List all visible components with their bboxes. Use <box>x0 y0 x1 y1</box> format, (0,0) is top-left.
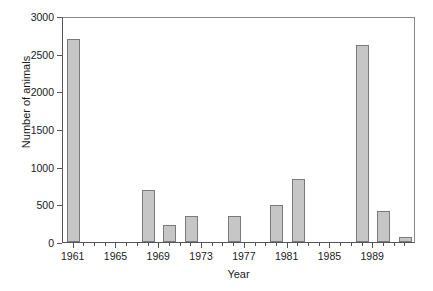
x-axis-tick <box>158 243 159 248</box>
bar <box>399 237 412 242</box>
bar <box>228 216 241 242</box>
x-axis-minor-tick <box>83 243 84 246</box>
y-axis-tick <box>57 243 62 244</box>
x-axis-minor-tick <box>94 243 95 246</box>
x-axis-tick-label: 1961 <box>53 250 93 262</box>
y-axis-tick-label: 2000 <box>31 87 54 97</box>
x-axis-minor-tick <box>319 243 320 246</box>
x-axis-minor-tick <box>394 243 395 246</box>
bar <box>67 39 80 242</box>
x-axis-minor-tick <box>404 243 405 246</box>
x-axis-minor-tick <box>180 243 181 246</box>
x-axis-tick <box>244 243 245 248</box>
x-axis-tick <box>287 243 288 248</box>
y-axis-tick-label: 1500 <box>31 125 54 135</box>
x-axis-minor-tick <box>233 243 234 246</box>
x-axis-minor-tick <box>169 243 170 246</box>
x-axis-tick <box>115 243 116 248</box>
x-axis-minor-tick <box>351 243 352 246</box>
plot-area <box>62 17 415 243</box>
x-axis-minor-tick <box>362 243 363 246</box>
y-axis-title: Number of animals <box>20 32 32 172</box>
bar-chart: 050010001500200025003000 Number of anima… <box>0 0 433 291</box>
x-axis-tick <box>73 243 74 248</box>
x-axis-minor-tick <box>222 243 223 246</box>
y-axis-tick-label: 2500 <box>31 50 54 60</box>
x-axis-tick-label: 1969 <box>138 250 178 262</box>
x-axis-tick-label: 1977 <box>224 250 264 262</box>
y-axis-tick-label: 500 <box>36 200 54 210</box>
x-axis-minor-tick <box>297 243 298 246</box>
bar <box>270 205 283 242</box>
bars-layer <box>63 18 414 242</box>
x-axis-minor-tick <box>126 243 127 246</box>
x-axis-tick-label: 1985 <box>309 250 349 262</box>
x-axis-tick <box>201 243 202 248</box>
y-axis-tick-label: 0 <box>48 238 54 248</box>
x-axis-tick-label: 1989 <box>352 250 392 262</box>
x-axis-tick-label: 1965 <box>95 250 135 262</box>
x-axis-tick <box>329 243 330 248</box>
x-axis-tick-label: 1981 <box>267 250 307 262</box>
x-axis-tick <box>372 243 373 248</box>
x-axis-tick-label: 1973 <box>181 250 221 262</box>
bar <box>163 225 176 242</box>
bar <box>185 216 198 242</box>
bar <box>377 211 390 242</box>
x-axis-minor-tick <box>308 243 309 246</box>
x-axis-minor-tick <box>255 243 256 246</box>
x-axis-minor-tick <box>265 243 266 246</box>
x-axis-minor-tick <box>148 243 149 246</box>
bar <box>142 190 155 242</box>
x-axis-minor-tick <box>190 243 191 246</box>
y-axis-tick-label: 3000 <box>31 12 54 22</box>
bar <box>356 45 369 242</box>
x-axis-minor-tick <box>340 243 341 246</box>
y-axis-tick-label: 1000 <box>31 163 54 173</box>
x-axis-minor-tick <box>276 243 277 246</box>
bar <box>292 179 305 242</box>
x-axis-minor-tick <box>137 243 138 246</box>
x-axis-minor-tick <box>383 243 384 246</box>
x-axis-title: Year <box>62 268 415 280</box>
x-axis-minor-tick <box>105 243 106 246</box>
x-axis-minor-tick <box>212 243 213 246</box>
